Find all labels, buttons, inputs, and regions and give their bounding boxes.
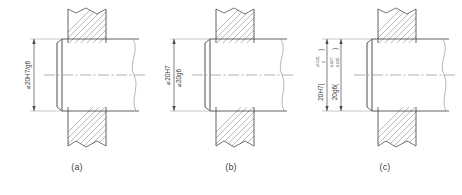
dimension-line bbox=[32, 39, 35, 111]
lower-housing-block bbox=[50, 100, 142, 150]
upper-housing-block bbox=[360, 0, 452, 50]
engineering-drawing-figure: ⌀20H7/g6 (a) bbox=[0, 0, 462, 195]
upper-housing-block bbox=[198, 0, 290, 50]
lower-housing-block bbox=[198, 100, 290, 150]
lower-housing-block bbox=[360, 100, 452, 150]
panel-caption-c: (c) bbox=[308, 162, 462, 172]
hole-designation-label: ⌀20H7 bbox=[164, 65, 171, 85]
shaft-close-paren: ) bbox=[331, 48, 339, 50]
panel-c: 20H7( +0.021 0 ) 20g6( -0.007 -0.020 ) (… bbox=[308, 0, 462, 195]
panel-a: ⌀20H7/g6 (a) bbox=[0, 0, 154, 195]
hole-lower-deviation: 0 bbox=[321, 60, 326, 63]
shaft-lower-deviation: -0.020 bbox=[335, 57, 340, 69]
panel-caption-a: (a) bbox=[0, 162, 154, 172]
panel-caption-b: (b) bbox=[154, 162, 308, 172]
dimension-line-hole bbox=[325, 39, 328, 111]
shaft-designation-label: 20g6( bbox=[331, 83, 339, 100]
panel-b: ⌀20H7 ⌀20g6 (b) bbox=[154, 0, 308, 195]
dimension-line-shaft bbox=[339, 39, 342, 111]
hole-upper-deviation: +0.021 bbox=[315, 56, 320, 68]
shaft-upper-deviation: -0.007 bbox=[329, 57, 334, 68]
hole-designation-label: 20H7( bbox=[317, 82, 325, 100]
upper-housing-block bbox=[50, 0, 142, 50]
shaft-designation-label: ⌀20g6 bbox=[175, 68, 183, 87]
panel-b-drawing: ⌀20H7 ⌀20g6 bbox=[154, 0, 308, 160]
panel-a-drawing: ⌀20H7/g6 bbox=[0, 0, 154, 160]
panel-c-drawing: 20H7( +0.021 0 ) 20g6( -0.007 -0.020 ) bbox=[308, 0, 462, 160]
fit-designation-label: ⌀20H7/g6 bbox=[24, 60, 32, 89]
hole-close-paren: ) bbox=[317, 49, 325, 51]
